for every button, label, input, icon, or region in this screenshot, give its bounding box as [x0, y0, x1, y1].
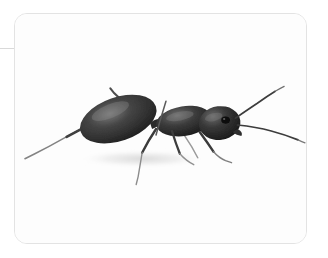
eye — [221, 117, 230, 124]
leg-mid-rear-femur — [142, 129, 156, 153]
antenna-upper — [235, 91, 275, 118]
antenna-upper-tip — [275, 86, 284, 91]
screen-canvas — [0, 0, 328, 258]
antenna-lower-tip — [298, 140, 305, 143]
antenna-lower — [237, 125, 298, 140]
ant-photograph — [15, 14, 306, 243]
eye-glint — [223, 118, 225, 120]
image-card[interactable] — [14, 13, 307, 244]
connector-line — [0, 48, 15, 49]
leg-fore — [214, 152, 232, 163]
gaster — [74, 86, 163, 153]
ant-illustration — [15, 14, 306, 243]
